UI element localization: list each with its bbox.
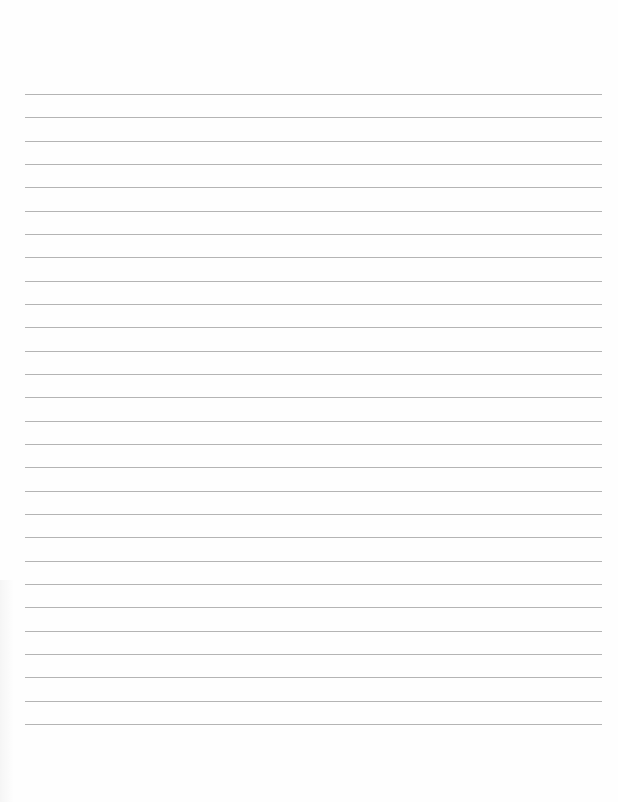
ruled-line bbox=[25, 374, 602, 375]
ruled-line bbox=[25, 94, 602, 95]
ruled-line bbox=[25, 584, 602, 585]
ruled-line bbox=[25, 701, 602, 702]
ruled-line bbox=[25, 141, 602, 142]
ruled-line bbox=[25, 351, 602, 352]
ruled-line bbox=[25, 164, 602, 165]
ruled-line bbox=[25, 537, 602, 538]
ruled-line bbox=[25, 607, 602, 608]
lined-paper-page bbox=[0, 0, 618, 802]
ruled-line bbox=[25, 421, 602, 422]
ruled-line bbox=[25, 514, 602, 515]
ruled-line bbox=[25, 631, 602, 632]
ruled-line bbox=[25, 281, 602, 282]
ruled-line bbox=[25, 234, 602, 235]
ruled-line bbox=[25, 561, 602, 562]
ruled-line bbox=[25, 211, 602, 212]
ruled-line bbox=[25, 327, 602, 328]
ruled-line bbox=[25, 654, 602, 655]
ruled-line bbox=[25, 187, 602, 188]
page-edge-shadow bbox=[0, 580, 14, 802]
ruled-line bbox=[25, 117, 602, 118]
ruled-line bbox=[25, 467, 602, 468]
ruled-line bbox=[25, 397, 602, 398]
ruled-line bbox=[25, 444, 602, 445]
ruled-line bbox=[25, 304, 602, 305]
ruled-line bbox=[25, 257, 602, 258]
ruled-line bbox=[25, 677, 602, 678]
ruled-line bbox=[25, 724, 602, 725]
ruled-line bbox=[25, 491, 602, 492]
